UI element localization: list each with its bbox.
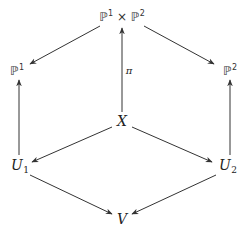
times-symbol: ×	[113, 10, 131, 24]
node-p2: ℙ2	[223, 64, 237, 77]
arrow-product-to-p2	[144, 26, 214, 64]
p2-exp: 2	[232, 63, 237, 72]
pi-label: π	[126, 65, 133, 76]
u1-base: U	[11, 157, 23, 173]
commutative-diagram: ℙ1 × ℙ2 ℙ1 ℙ2 π X U1 U2 V	[0, 0, 244, 233]
x-label: X	[117, 113, 127, 129]
u2-sub: 2	[231, 165, 237, 175]
u1-sub: 1	[23, 165, 29, 175]
node-v: V	[117, 212, 127, 226]
node-u1: U1	[11, 158, 29, 175]
product-base2: ℙ	[131, 10, 139, 24]
node-x: X	[117, 114, 127, 128]
arrow-product-to-p1	[30, 26, 100, 64]
p1-base: ℙ	[10, 64, 18, 78]
node-u2: U2	[219, 158, 237, 175]
u2-base: U	[219, 157, 231, 173]
v-label: V	[117, 211, 127, 227]
product-base1: ℙ	[99, 10, 107, 24]
p1-exp: 1	[19, 63, 24, 72]
arrow-u2-to-v	[132, 175, 216, 214]
node-p1-times-p2: ℙ1 × ℙ2	[99, 10, 145, 23]
p2-base: ℙ	[223, 64, 231, 78]
arrow-x-to-u1	[32, 127, 112, 162]
node-p1: ℙ1	[10, 64, 24, 77]
arrow-u1-to-v	[30, 175, 112, 214]
product-exp2: 2	[140, 9, 145, 18]
arrow-x-to-u2	[132, 127, 212, 162]
